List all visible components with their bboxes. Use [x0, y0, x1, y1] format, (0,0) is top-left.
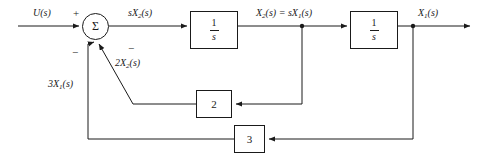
- label-fb3-tail: (s): [63, 78, 74, 89]
- summing-junction: Σ: [82, 13, 109, 40]
- integrator-1-denominator: s: [210, 32, 219, 43]
- label-feedback-3x1-s: 3X1(s): [48, 79, 73, 89]
- integrator-2-block: 1 s: [350, 11, 398, 49]
- sign-plus-input: +: [73, 8, 79, 19]
- block-diagram: Σ + − − 1 s 1 s 2 3 U(s) sX2(s) X2(s) = …: [0, 0, 484, 161]
- label-sx2-sub: 2: [138, 12, 142, 20]
- gain-3-label: 3: [247, 133, 253, 145]
- label-fb3-head: 3X: [48, 78, 59, 89]
- label-x1-sub: 1: [298, 12, 302, 20]
- label-input-u-s: U(s): [33, 8, 51, 18]
- junction-dot-x2: [300, 24, 304, 28]
- junction-dot-x1: [411, 24, 415, 28]
- label-sx2-tail: (s): [142, 7, 153, 18]
- label-output-x1-s: X1(s): [418, 8, 438, 18]
- wire-gain3-into-sum: [88, 42, 94, 44]
- integrator-2-numerator: 1: [370, 18, 379, 29]
- integrator-1-block: 1 s: [190, 11, 238, 49]
- label-out-tail: (s): [428, 7, 439, 18]
- label-sx2-s: sX2(s): [128, 8, 152, 18]
- sign-minus-inner-feedback: −: [128, 43, 134, 54]
- label-x2-tail: (s): [301, 7, 312, 18]
- integrator-2-denominator: s: [370, 32, 379, 43]
- label-fb2-tail: (s): [130, 57, 141, 68]
- gain-2-label: 2: [211, 98, 217, 110]
- gain-2-block: 2: [196, 90, 232, 118]
- label-x2-equals-sx1: X2(s) = sX1(s): [256, 8, 312, 18]
- label-x2-mid: (s) = sX: [266, 7, 298, 18]
- transfer-function-1-over-s: 1 s: [370, 18, 379, 42]
- label-fb2-head: 2X: [115, 57, 126, 68]
- label-fb3-sub: 1: [59, 83, 63, 91]
- label-sx2-head: sX: [128, 7, 138, 18]
- label-x2-sub: 2: [262, 12, 266, 20]
- label-feedback-2x2-s: 2X2(s): [115, 58, 140, 68]
- label-fb2-sub: 2: [126, 62, 130, 70]
- sigma-symbol: Σ: [92, 19, 99, 34]
- integrator-1-numerator: 1: [210, 18, 219, 29]
- label-out-sub: 1: [424, 12, 428, 20]
- gain-3-block: 3: [234, 125, 265, 153]
- transfer-function-1-over-s: 1 s: [210, 18, 219, 42]
- label-input-text: U(s): [33, 7, 51, 18]
- sign-minus-outer-feedback: −: [72, 47, 78, 58]
